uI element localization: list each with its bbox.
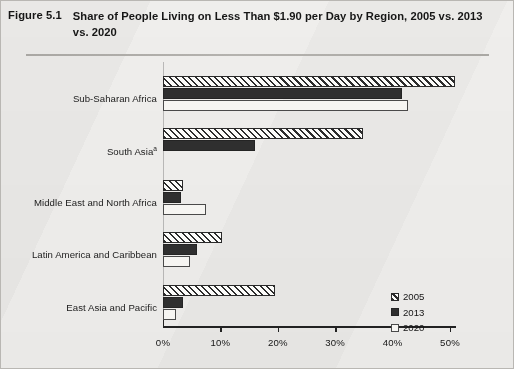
legend-label: 2005 bbox=[403, 291, 424, 302]
header-divider bbox=[26, 54, 489, 56]
bar-2020 bbox=[163, 309, 176, 320]
bar-group bbox=[163, 180, 514, 213]
bar-2005 bbox=[163, 76, 455, 87]
bar-2020 bbox=[163, 100, 408, 111]
bar-2005 bbox=[163, 285, 275, 296]
axis-tick-label: 0% bbox=[156, 337, 170, 348]
bar-2005 bbox=[163, 180, 183, 191]
figure-title: Share of People Living on Less Than $1.9… bbox=[73, 9, 500, 40]
category-label-text: East Asia and Pacific bbox=[66, 302, 157, 313]
axis-tick bbox=[450, 327, 451, 332]
axis-tick bbox=[278, 327, 279, 332]
legend-swatch-hatched-icon bbox=[391, 293, 399, 301]
category-label: Middle East and North Africa bbox=[0, 197, 157, 208]
bar-group bbox=[163, 285, 514, 318]
category-label: East Asia and Pacific bbox=[0, 302, 157, 313]
axis-tick-label: 50% bbox=[440, 337, 460, 348]
bar-2013 bbox=[163, 297, 183, 308]
figure-header: Figure 5.1 Share of People Living on Les… bbox=[8, 9, 500, 40]
bar-groups bbox=[163, 62, 514, 347]
bar-2020 bbox=[163, 256, 190, 267]
bar-group bbox=[163, 128, 514, 161]
bar-2013 bbox=[163, 192, 181, 203]
axis-tick-label: 20% bbox=[268, 337, 288, 348]
chart-legend: 2005 2013 2020 bbox=[391, 291, 424, 333]
category-label: South Asiaa bbox=[0, 145, 157, 157]
axis-tick-label: 30% bbox=[325, 337, 345, 348]
bar-group bbox=[163, 76, 514, 109]
figure-page: Figure 5.1 Share of People Living on Les… bbox=[0, 0, 514, 369]
bar-2005 bbox=[163, 128, 363, 139]
category-label: Latin America and Caribbean bbox=[0, 249, 157, 260]
legend-swatch-solid-icon bbox=[391, 308, 399, 316]
bar-2005 bbox=[163, 232, 222, 243]
axis-tick bbox=[335, 327, 336, 332]
legend-label: 2020 bbox=[403, 322, 424, 333]
bar-2020 bbox=[163, 204, 206, 215]
axis-tick-label: 40% bbox=[383, 337, 403, 348]
category-label-text: Latin America and Caribbean bbox=[32, 249, 157, 260]
legend-swatch-outline-icon bbox=[391, 324, 399, 332]
axis-tick bbox=[220, 327, 221, 332]
bar-2013 bbox=[163, 88, 402, 99]
legend-item-2020: 2020 bbox=[391, 322, 424, 333]
bar-2013 bbox=[163, 244, 197, 255]
page-border-top bbox=[0, 0, 514, 1]
legend-item-2005: 2005 bbox=[391, 291, 424, 302]
category-footnote-marker: a bbox=[153, 145, 157, 152]
legend-item-2013: 2013 bbox=[391, 307, 424, 318]
chart-plot-area: Sub-Saharan AfricaSouth AsiaaMiddle East… bbox=[0, 62, 514, 347]
figure-number: Figure 5.1 bbox=[8, 9, 62, 21]
axis-tick-label: 10% bbox=[210, 337, 230, 348]
category-label-text: South Asia bbox=[107, 146, 153, 157]
category-label-text: Middle East and North Africa bbox=[34, 197, 157, 208]
bar-2013 bbox=[163, 140, 255, 151]
category-label: Sub-Saharan Africa bbox=[0, 93, 157, 104]
axis-tick bbox=[163, 320, 164, 327]
category-label-text: Sub-Saharan Africa bbox=[73, 93, 157, 104]
bar-group bbox=[163, 232, 514, 265]
legend-label: 2013 bbox=[403, 307, 424, 318]
